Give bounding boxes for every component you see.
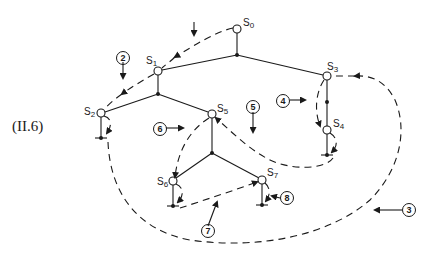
step-5-badge: 5 (246, 100, 260, 114)
node-label-s6-name: S (157, 176, 164, 187)
step-4-badge: 4 (276, 94, 290, 108)
node-label-s3: S3 (327, 62, 338, 74)
node-label-s2-name: S (84, 106, 91, 117)
node-s7-circle (258, 176, 266, 184)
node-s6-circle (169, 177, 177, 185)
state-nodes (97, 25, 331, 185)
node-label-s1-sub: 1 (153, 59, 157, 68)
node-s1-circle (154, 67, 162, 75)
node-label-s2: S2 (84, 107, 95, 119)
step-7-badge: 7 (201, 224, 215, 238)
node-label-s7: S7 (267, 168, 278, 180)
junction-dots (99, 53, 329, 208)
node-label-s0: S0 (243, 18, 254, 30)
node-s2-circle (97, 109, 105, 117)
node-label-s6: S6 (157, 177, 168, 189)
node-label-s3-name: S (327, 61, 334, 72)
node-label-s5-name: S (217, 103, 224, 114)
node-label-s4-name: S (333, 118, 340, 129)
node-s4-circle (323, 126, 331, 134)
node-label-s4: S4 (333, 119, 344, 131)
tree-edges (95, 33, 333, 206)
node-label-s6-sub: 6 (164, 180, 168, 189)
node-label-s7-sub: 7 (274, 171, 278, 180)
node-label-s1: S1 (146, 56, 157, 68)
node-s0-circle (233, 25, 241, 33)
step-3-badge: 3 (402, 203, 416, 217)
node-label-s4-sub: 4 (340, 122, 344, 131)
step-6-badge: 6 (153, 122, 167, 136)
node-label-s7-name: S (267, 167, 274, 178)
node-label-s2-sub: 2 (91, 110, 95, 119)
node-label-s5: S5 (217, 104, 228, 116)
node-label-s1-name: S (146, 55, 153, 66)
equation-label: (II.6) (12, 118, 43, 135)
tree-traversal-diagram: (II.6) S0 S1 S2 S3 S4 S5 S6 S7 2 3 4 5 6… (0, 0, 426, 270)
node-s5-circle (208, 110, 216, 118)
step-2-badge: 2 (116, 51, 130, 65)
step-8-badge: 8 (280, 191, 294, 205)
node-label-s0-sub: 0 (250, 21, 254, 30)
node-label-s5-sub: 5 (224, 107, 228, 116)
node-label-s3-sub: 3 (334, 65, 338, 74)
node-label-s0-name: S (243, 17, 250, 28)
